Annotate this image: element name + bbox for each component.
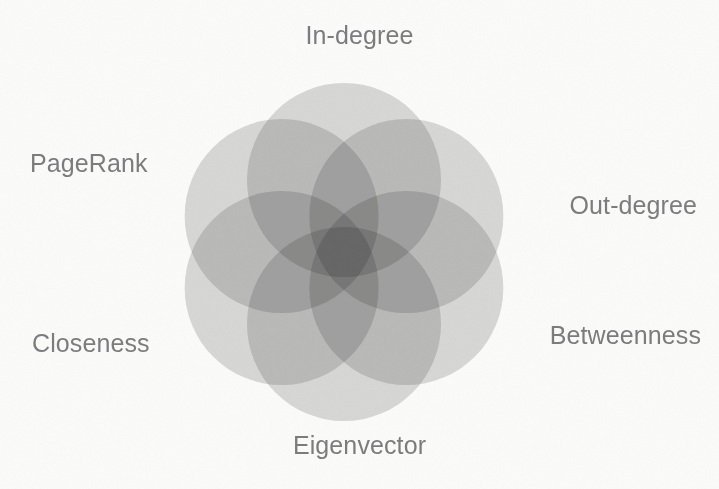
venn-diagram: [0, 0, 719, 489]
set-label-eigenvector: Eigenvector: [0, 432, 719, 460]
set-label-betweenness: Betweenness: [550, 322, 701, 350]
set-label-out-degree: Out-degree: [570, 192, 697, 220]
set-label-pagerank: PageRank: [30, 150, 148, 178]
venn-circle-pagerank: [185, 119, 379, 313]
set-label-closeness: Closeness: [32, 330, 150, 358]
figure-root: In-degree PageRank Closeness Out-degree …: [0, 0, 719, 489]
set-label-in-degree: In-degree: [0, 22, 719, 50]
venn-circles-svg: [0, 0, 719, 489]
